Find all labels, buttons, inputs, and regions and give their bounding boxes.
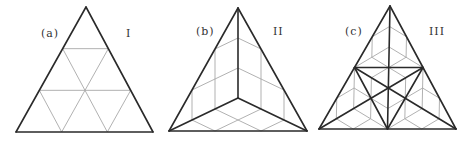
grid-line xyxy=(422,119,439,129)
triangle-a xyxy=(16,7,153,132)
grid-line xyxy=(389,57,406,67)
grid-line xyxy=(405,119,422,129)
grid-line xyxy=(353,119,370,129)
panel-a-letter: (a) xyxy=(41,28,59,40)
grid-line xyxy=(354,68,355,109)
grid-line xyxy=(389,68,406,78)
grid-line xyxy=(371,68,388,78)
grid-line xyxy=(336,119,353,129)
panel-c-numeral: III xyxy=(429,26,445,38)
grid-line xyxy=(39,90,61,132)
panel-c-letter: (c) xyxy=(345,26,363,38)
edge-line xyxy=(16,7,86,132)
grid-line xyxy=(107,90,130,132)
grid-line xyxy=(192,120,215,131)
edge-line xyxy=(169,98,238,131)
figure-canvas xyxy=(0,0,471,144)
grid-line xyxy=(422,68,423,109)
edge-line xyxy=(86,7,153,132)
panel-b-letter: (b) xyxy=(196,26,215,38)
panel-a-numeral: I xyxy=(126,28,131,40)
panel-b-numeral: II xyxy=(273,26,284,38)
triangle-b xyxy=(169,8,307,131)
grid-line xyxy=(372,57,389,67)
edge-line xyxy=(238,98,307,131)
grid-line xyxy=(261,120,284,131)
